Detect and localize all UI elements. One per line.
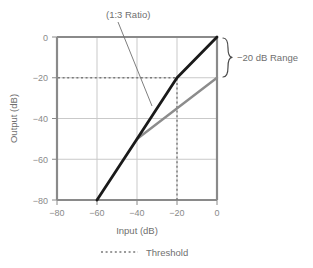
legend: Threshold <box>101 247 188 258</box>
y-tick-labels: 0 −20 −40 −60 −80 <box>33 33 48 206</box>
compression-curve-figure: 0 −20 −40 −60 −80 −80 −60 −40 −20 0 (1:3… <box>0 0 313 268</box>
x-axis-title: Input (dB) <box>116 225 158 236</box>
x-tick-labels: −80 −60 −40 −20 0 <box>49 208 219 218</box>
range-brace-icon <box>223 38 232 77</box>
x-tick-label-0: 0 <box>214 208 219 218</box>
x-tick-label--80: −80 <box>49 208 64 218</box>
ratio-annotation-label: (1:3 Ratio) <box>106 9 150 20</box>
y-tick-label--40: −40 <box>33 114 48 124</box>
x-tick-label--40: −40 <box>129 208 144 218</box>
y-axis-title: Output (dB) <box>8 94 19 143</box>
chart-svg: 0 −20 −40 −60 −80 −80 −60 −40 −20 0 (1:3… <box>0 0 313 268</box>
y-tick-label--60: −60 <box>33 155 48 165</box>
y-tick-label-0: 0 <box>43 33 48 43</box>
y-tick-label--20: −20 <box>33 73 48 83</box>
y-tick-label--80: −80 <box>33 196 48 206</box>
range-annotation-label: −20 dB Range <box>237 52 298 63</box>
x-tick-label--60: −60 <box>89 208 104 218</box>
legend-label-threshold: Threshold <box>146 247 188 258</box>
x-tick-label--20: −20 <box>169 208 184 218</box>
